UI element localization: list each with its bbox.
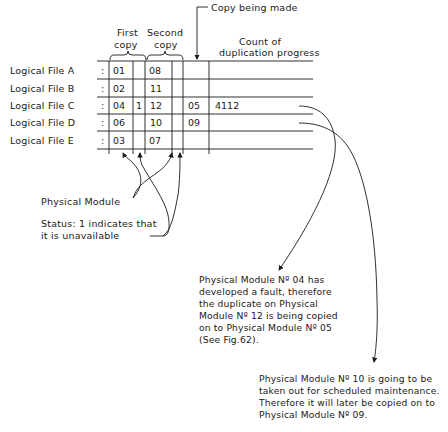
second-copy-cell: 08 [149, 65, 161, 77]
copy-being-made-cell: 05 [188, 100, 200, 112]
status-label-line2: it is unavailable [41, 230, 119, 242]
note1-line: the duplicate on Physical [199, 298, 318, 310]
second-copy-cell: 12 [150, 100, 162, 112]
row-sep: : [101, 135, 104, 147]
second-copy-cell: 10 [150, 117, 162, 129]
copy-being-made-label: Copy being made [211, 2, 298, 14]
note2-line: Therefore it will later be copied on to [259, 397, 435, 409]
status-label-line1: Status: 1 indicates that [41, 218, 157, 230]
first-status-cell: 1 [136, 100, 142, 112]
row-sep: : [101, 117, 104, 129]
row-sep: : [101, 100, 104, 112]
second-copy-cell: 11 [150, 83, 162, 95]
second-copy-cell: 07 [149, 135, 161, 147]
note2-line: Physical Module Nº 09. [259, 409, 368, 421]
first-copy-cell: 01 [113, 65, 125, 77]
row-label-a: Logical File A [10, 65, 75, 77]
note1-line: Physical Module Nº 04 has [199, 274, 324, 286]
row-sep: : [101, 83, 104, 95]
first-copy-label-line2: copy [114, 39, 138, 51]
first-copy-cell: 03 [113, 135, 125, 147]
note2-line: taken out for scheduled maintenance. [259, 385, 440, 397]
count-label-line2: duplication progress [219, 47, 320, 59]
note1-line: on to Physical Module Nº 05 [199, 322, 332, 334]
second-copy-label-line1: Second [147, 27, 183, 39]
physical-module-label: Physical Module [41, 196, 120, 208]
second-copy-label-line2: copy [154, 39, 178, 51]
first-copy-cell: 02 [113, 83, 125, 95]
first-copy-cell: 04 [113, 100, 125, 112]
count-cell: 4112 [215, 100, 239, 112]
row-label-e: Logical File E [10, 135, 74, 147]
note1-line: developed a fault, therefore [199, 286, 332, 298]
row-label-d: Logical File D [10, 117, 75, 129]
row-sep: : [101, 65, 104, 77]
note1-line: (See Fig.62). [199, 334, 259, 346]
first-copy-label-line1: First [117, 27, 138, 39]
row-label-c: Logical File C [10, 100, 75, 112]
note2-line: Physical Module Nº 10 is going to be [259, 373, 432, 385]
first-copy-cell: 06 [113, 117, 125, 129]
copy-being-made-cell: 09 [188, 117, 200, 129]
note1-line: Module Nº 12 is being copied [199, 310, 338, 322]
row-label-b: Logical File B [10, 83, 75, 95]
